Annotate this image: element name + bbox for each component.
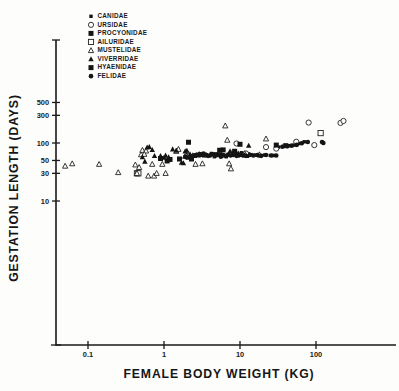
legend-item-viverridae: VIVERRIDAE: [88, 55, 138, 62]
legend-label: AILURIDAE: [98, 38, 135, 45]
data-point: [158, 153, 163, 158]
data-point: [152, 153, 157, 158]
legend-label: FELIDAE: [98, 72, 127, 79]
data-point: [225, 137, 230, 142]
data-point: [299, 141, 304, 146]
legend-item-ailuridae: AILURIDAE: [88, 38, 134, 45]
legend-marker-felidae: [89, 74, 94, 79]
data-point: [285, 144, 290, 149]
data-point: [63, 163, 68, 168]
series-mustelidae: [63, 123, 269, 178]
data-point: [227, 161, 232, 166]
y-tick-label: 30: [41, 169, 49, 178]
data-point: [263, 136, 268, 141]
data-point: [193, 161, 198, 166]
plot-legend: CANIDAEURSIDAEPROCYONIDAEAILURIDAEMUSTEL…: [88, 12, 147, 79]
data-point: [259, 154, 264, 159]
legend-item-canidae: CANIDAE: [89, 12, 128, 19]
data-point: [289, 143, 294, 148]
data-point: [246, 143, 251, 148]
data-point: [223, 123, 228, 128]
data-point: [221, 147, 226, 152]
data-point: [163, 171, 168, 176]
data-point: [228, 166, 233, 171]
data-point: [116, 170, 121, 175]
x-tick-label: 10: [236, 350, 244, 359]
plot-canvas: 1030501003005000.1110100 CANIDAEURSIDAEP…: [0, 0, 399, 391]
data-point: [186, 140, 191, 145]
data-point: [341, 118, 346, 123]
data-point: [295, 143, 300, 148]
legend-marker-hyaenidae: [89, 65, 94, 70]
data-point: [244, 154, 249, 159]
legend-item-hyaenidae: HYAENIDAE: [89, 63, 137, 70]
legend-marker-procyonidae: [89, 31, 94, 36]
tick-labels-group: 1030501003005000.1110100: [37, 98, 323, 359]
legend-marker-mustelidae: [88, 48, 93, 53]
data-point: [238, 142, 243, 147]
x-tick-label: 100: [310, 350, 322, 359]
data-point: [154, 171, 159, 176]
data-point: [305, 140, 310, 145]
legend-item-mustelidae: MUSTELIDAE: [88, 46, 141, 53]
data-point: [318, 131, 323, 136]
data-point: [133, 162, 138, 167]
data-point: [263, 144, 268, 149]
data-point: [170, 146, 175, 151]
data-point: [264, 153, 269, 158]
data-point: [321, 141, 326, 146]
ticks-group: [51, 40, 316, 349]
data-point: [306, 120, 311, 125]
y-axis-title: GESTATION LENGTH (DAYS): [7, 94, 21, 282]
legend-label: PROCYONIDAE: [98, 29, 148, 36]
series-procyonidae: [158, 140, 226, 164]
data-point: [150, 161, 155, 166]
legend-item-ursidae: URSIDAE: [88, 21, 127, 28]
legend-marker-canidae: [89, 15, 92, 18]
axis-spines: [56, 40, 396, 345]
legend-item-felidae: FELIDAE: [89, 72, 126, 79]
axes-group: [56, 40, 396, 345]
data-point: [280, 144, 285, 149]
data-point: [160, 161, 165, 166]
legend-marker-ailuridae: [88, 39, 93, 44]
legend-marker-ursidae: [88, 22, 93, 27]
scatter-plot-figure: 1030501003005000.1110100 CANIDAEURSIDAEP…: [0, 0, 399, 391]
data-point: [251, 153, 256, 158]
x-tick-label: 0.1: [83, 350, 93, 359]
x-tick-label: 1: [162, 350, 166, 359]
y-tick-label: 10: [41, 197, 49, 206]
legend-marker-viverridae: [88, 56, 93, 61]
legend-label: VIVERRIDAE: [98, 55, 139, 62]
data-point: [312, 143, 317, 148]
data-point: [200, 161, 205, 166]
legend-label: URSIDAE: [98, 21, 128, 28]
data-point: [274, 143, 279, 148]
x-axis-title: FEMALE BODY WEIGHT (KG): [123, 367, 314, 381]
data-point: [97, 161, 102, 166]
series-ursidae: [228, 118, 346, 156]
y-tick-label: 50: [41, 156, 49, 165]
legend-label: MUSTELIDAE: [98, 46, 141, 53]
y-tick-label: 500: [37, 98, 49, 107]
data-point: [70, 161, 75, 166]
legend-label: CANIDAE: [98, 12, 128, 19]
data-points-group: [63, 118, 347, 178]
y-tick-label: 100: [37, 139, 49, 148]
y-tick-label: 300: [37, 111, 49, 120]
legend-label: HYAENIDAE: [98, 63, 137, 70]
data-point: [163, 153, 168, 158]
data-point: [274, 153, 279, 158]
data-point: [183, 154, 188, 159]
legend-item-procyonidae: PROCYONIDAE: [89, 29, 148, 36]
data-point: [269, 153, 274, 158]
data-point: [146, 173, 151, 178]
